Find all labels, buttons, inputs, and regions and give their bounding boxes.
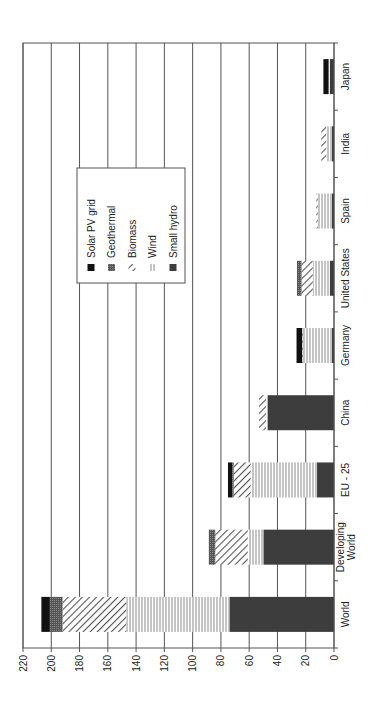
- legend-label: Wind: [147, 235, 158, 258]
- tick-label: 120: [159, 655, 170, 672]
- category-label: DevelopingWorld: [335, 522, 357, 572]
- category-label: Japan: [340, 63, 351, 90]
- category-label: India: [340, 133, 351, 155]
- bar-segment-biomass: [301, 261, 312, 296]
- tick-label: 20: [300, 655, 311, 667]
- bar-segment-biomass: [321, 126, 326, 161]
- bar-world: [41, 597, 334, 632]
- bars: [41, 59, 334, 632]
- bar-segment-geothermal: [210, 530, 216, 565]
- tick-label: 180: [74, 655, 85, 672]
- bar-segment-solar-pv-grid: [41, 597, 49, 632]
- solar-legend-swatch-icon: [88, 264, 95, 271]
- tick-label: 100: [187, 655, 198, 672]
- tick-label: 0: [329, 655, 340, 661]
- geo-legend-swatch-icon: [108, 264, 115, 271]
- bar-segment-solar-pv-grid: [323, 59, 328, 94]
- category-label: EU - 25: [340, 463, 351, 497]
- bar-segment-wind: [266, 395, 267, 430]
- bar-segment-geothermal: [232, 462, 233, 497]
- hydro-legend-swatch-icon: [170, 264, 177, 271]
- category-axis: WorldDevelopingWorldEU - 25ChinaGermanyU…: [334, 43, 357, 648]
- bar-spain: [316, 194, 334, 229]
- bar-segment-solar-pv-grid: [228, 462, 232, 497]
- bar-segment-geothermal: [328, 59, 329, 94]
- bar-segment-small-hydro: [229, 597, 334, 632]
- bar-segment-wind: [126, 597, 229, 632]
- bar-united-states: [297, 261, 334, 296]
- category-label: Spain: [340, 198, 351, 224]
- bar-segment-wind: [326, 126, 332, 161]
- bar-segment-small-hydro: [268, 395, 334, 430]
- category-label: United States: [340, 248, 351, 308]
- bar-segment-wind: [248, 530, 264, 565]
- bar-segment-solar-pv-grid: [297, 328, 303, 363]
- bar-segment-wind: [313, 261, 330, 296]
- bar-segment-small-hydro: [330, 59, 334, 94]
- bar-segment-biomass: [302, 328, 303, 363]
- bar-segment-solar-pv-grid: [209, 530, 210, 565]
- category-label: World: [340, 601, 351, 627]
- category-label: Germany: [340, 325, 351, 366]
- value-axis: 020406080100120140160180200220: [18, 648, 340, 672]
- tick-label: 60: [244, 655, 255, 667]
- tick-label: 220: [18, 655, 29, 672]
- stacked-bar-chart: 020406080100120140160180200220 WorldDeve…: [0, 0, 383, 708]
- legend-label: Solar PV grid: [86, 199, 97, 258]
- bar-segment-biomass: [63, 597, 127, 632]
- bar-segment-small-hydro: [317, 462, 334, 497]
- legend-label: Small hydro: [168, 205, 179, 258]
- bar-developing-world: [209, 530, 334, 565]
- bar-segment-wind: [329, 59, 330, 94]
- bar-segment-wind: [251, 462, 317, 497]
- bar-segment-biomass: [316, 194, 317, 229]
- bar-segment-wind: [318, 194, 332, 229]
- bar-segment-small-hydro: [263, 530, 334, 565]
- legend-label: Biomass: [127, 220, 138, 258]
- bar-germany: [297, 328, 334, 363]
- bar-china: [259, 395, 334, 430]
- tick-label: 40: [272, 655, 283, 667]
- bar-segment-biomass: [215, 530, 248, 565]
- bar-segment-small-hydro: [330, 261, 334, 296]
- tick-label: 80: [215, 655, 226, 667]
- bar-segment-wind: [303, 328, 332, 363]
- bar-segment-biomass: [234, 462, 251, 497]
- legend: Solar PV gridGeothermalBiomassWindSmall …: [77, 168, 185, 283]
- tick-label: 200: [46, 655, 57, 672]
- wind-legend-swatch-icon: [149, 264, 156, 271]
- bar-segment-geothermal: [298, 261, 302, 296]
- tick-label: 160: [102, 655, 113, 672]
- bar-eu-25: [228, 462, 334, 497]
- category-label: China: [340, 399, 351, 426]
- tick-label: 140: [131, 655, 142, 672]
- bar-segment-biomass: [259, 395, 266, 430]
- bar-japan: [323, 59, 334, 94]
- bio-legend-swatch-icon: [129, 264, 136, 271]
- bar-segment-solar-pv-grid: [297, 261, 298, 296]
- bar-india: [321, 126, 334, 161]
- legend-label: Geothermal: [106, 206, 117, 258]
- bar-segment-geothermal: [50, 597, 63, 632]
